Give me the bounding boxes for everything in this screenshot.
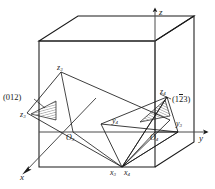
plane-123-edge-a (101, 124, 178, 132)
miller-index-figure: z y x O3 O4 z3 z3 y3 x3 z4 y4 x4 (012) (… (0, 0, 215, 189)
miller-123-digit-2: 2 (179, 95, 183, 104)
point-label-O4: O4 (150, 134, 158, 142)
point-label-z4-sub: 4 (163, 91, 165, 96)
miller-012-close: ) (19, 92, 22, 102)
point-label-y3: y3 (176, 120, 182, 128)
point-label-O4-base: O (150, 133, 156, 142)
point-label-O3-base: O (66, 133, 72, 142)
point-label-z3-left: z3 (20, 111, 26, 119)
miller-123-close: ) (188, 94, 191, 104)
line-z3-to-O3 (61, 72, 73, 132)
miller-index-label-012: (012) (3, 93, 21, 102)
point-label-O4-sub: 4 (156, 137, 158, 142)
point-label-z3-left-sub: 3 (23, 114, 25, 119)
point-label-x4: x4 (124, 169, 130, 177)
line-O3-to-x3 (73, 132, 122, 167)
axis-label-x: x (20, 173, 24, 182)
unit-cell-box (39, 16, 194, 167)
point-label-x3-sub: 3 (114, 172, 116, 177)
point-label-y4-sub: 4 (116, 120, 118, 125)
miller-index-label-123: (123) (172, 95, 190, 104)
point-label-y4: y4 (112, 117, 118, 125)
point-label-x4-sub: 4 (128, 172, 130, 177)
point-label-z4: z4 (160, 88, 166, 96)
axis-label-z: z (159, 8, 163, 17)
point-label-O3: O3 (66, 134, 74, 142)
point-label-z3-upper-sub: 3 (60, 67, 62, 72)
point-label-x3: x3 (110, 169, 116, 177)
axis-label-y: y (199, 134, 203, 143)
cell-front-face (39, 41, 155, 167)
x-axis-line (25, 98, 96, 172)
point-label-O3-sub: 3 (72, 137, 74, 142)
point-label-y3-sub: 3 (180, 123, 182, 128)
cell-top-face (39, 16, 194, 41)
point-label-z3-upper: z3 (57, 64, 63, 72)
